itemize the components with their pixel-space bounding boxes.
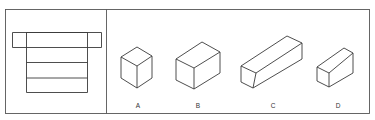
outer-frame (6, 10, 370, 114)
option-a-label: A (136, 102, 141, 109)
option-c-label: C (271, 102, 276, 109)
option-a-cube[interactable] (121, 47, 152, 88)
option-c-bar[interactable] (241, 36, 302, 88)
option-d-wedge[interactable] (317, 48, 353, 87)
option-d-label: D (336, 102, 341, 109)
orthographic-view (13, 33, 102, 93)
figure-canvas: A B C D (0, 0, 375, 120)
option-b-box[interactable] (176, 42, 220, 89)
option-b-label: B (196, 102, 200, 109)
